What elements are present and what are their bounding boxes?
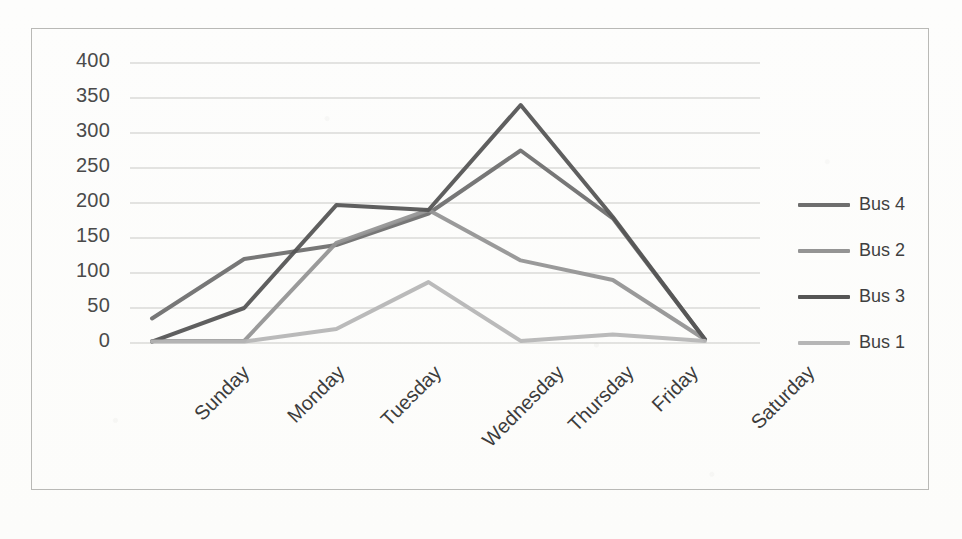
legend-label: Bus 1 bbox=[859, 332, 905, 353]
data-series-layer bbox=[152, 105, 705, 342]
legend-swatch bbox=[798, 249, 850, 253]
legend-label: Bus 3 bbox=[859, 286, 905, 307]
plot-area bbox=[0, 0, 962, 539]
legend-item-bus-1[interactable]: Bus 1 bbox=[798, 332, 905, 353]
legend-item-bus-2[interactable]: Bus 2 bbox=[798, 240, 905, 261]
legend-label: Bus 4 bbox=[859, 194, 905, 215]
series-line-bus-3 bbox=[152, 105, 705, 342]
legend-item-bus-3[interactable]: Bus 3 bbox=[798, 286, 905, 307]
legend-swatch bbox=[798, 203, 850, 207]
legend-item-bus-4[interactable]: Bus 4 bbox=[798, 194, 905, 215]
legend-swatch bbox=[798, 341, 850, 345]
legend-label: Bus 2 bbox=[859, 240, 905, 261]
legend-swatch bbox=[798, 295, 850, 299]
